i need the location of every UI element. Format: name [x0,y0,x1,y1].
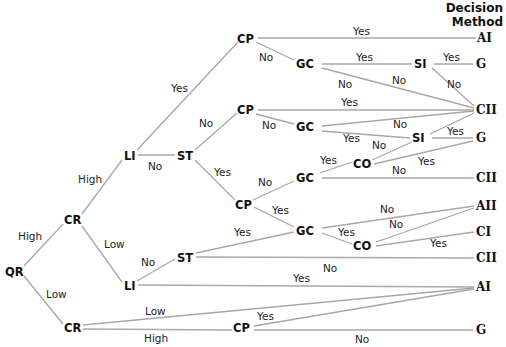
label-cp3-no: No [258,176,272,188]
label-cp2-no: No [262,119,276,131]
node-co-1: CO [353,157,371,171]
decision-method-header-line2: Method [452,15,503,29]
outcome-2: G [476,57,486,71]
node-co-2: CO [353,239,371,253]
node-gc-2: GC [296,120,314,134]
label-si1-no: No [447,78,461,90]
label-qr-high: High [18,230,42,242]
node-qr: QR [5,265,24,279]
label-st2-no: No [323,262,337,274]
node-si-1: SI [414,57,427,71]
label-gc2-no: No [393,118,407,130]
label-li-yes: Yes [170,82,188,94]
label-si2-no: No [372,139,386,151]
node-cr-high: CR [64,213,81,227]
label-st-yes: Yes [213,166,231,178]
label-qr-low: Low [46,288,67,300]
outcome-3: CII [476,103,497,117]
label-st-no: No [199,117,213,129]
label-co2-no: No [389,218,403,230]
outcome-5: CII [476,171,497,185]
label-cp4-no: No [355,333,369,345]
node-st-top: ST [177,149,193,163]
label-gc4-no: No [380,203,394,215]
node-cp-2: CP [237,103,254,117]
label-gc1-no-a: No [338,78,352,90]
node-li-top: LI [124,149,136,163]
label-li2-no: No [141,256,155,268]
outcome-7: CI [476,225,492,239]
label-cp1-yes: Yes [352,25,370,37]
label-gc1-no-b: No [392,74,406,86]
label-co1-yes: Yes [417,155,435,167]
node-cp-1: CP [237,32,254,46]
label-cr-low: Low [104,238,125,250]
label-gc2-yes: Yes [342,132,360,144]
label-gc1-yes: Yes [355,51,373,63]
label-co2-yes: Yes [429,237,447,249]
label-cp3-yes: Yes [271,204,289,216]
node-gc-3: GC [296,171,314,185]
outcome-9: AI [475,280,491,294]
node-cp-4: CP [233,321,250,335]
node-si-2: SI [412,131,425,145]
outcome-1: AI [476,31,492,45]
label-li-no: No [148,160,162,172]
decision-tree-diagram: Decision Method QR CR CR LI LI ST ST CP … [0,0,506,347]
node-cp-3: CP [235,198,252,212]
label-gc3-yes: Yes [319,154,337,166]
label-gc3-no: No [392,164,406,176]
node-gc-4: GC [296,224,314,238]
label-cr2-high: High [144,332,168,344]
node-li-bottom: LI [124,279,136,293]
label-si2-yes: Yes [446,125,464,137]
outcome-4: G [476,131,486,145]
node-st-bottom: ST [177,251,193,265]
label-si1-yes: Yes [442,51,460,63]
label-cr2-low: Low [145,305,166,317]
label-gc4-yes: Yes [337,226,355,238]
outcome-6: AII [475,199,497,213]
decision-method-header-line1: Decision [446,1,503,15]
label-cp2-yes: Yes [340,96,358,108]
label-li2-yes: Yes [292,272,310,284]
node-gc-1: GC [296,57,314,71]
label-cp1-no: No [259,51,273,63]
label-st2-yes: Yes [233,226,251,238]
label-cr-high: High [78,173,102,185]
outcome-8: CII [476,251,497,265]
node-cr-low: CR [64,321,81,335]
outcome-10: G [476,323,486,337]
label-cp4-yes: Yes [256,310,274,322]
